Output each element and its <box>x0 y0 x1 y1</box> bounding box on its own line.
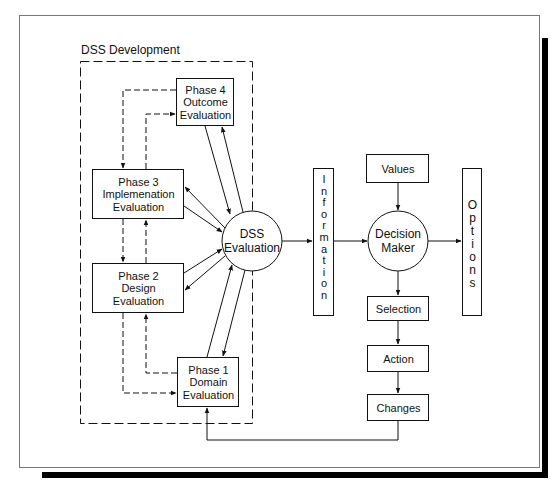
phase1-title: Phase 1 <box>188 364 228 377</box>
phase4-node: Phase 4 Outcome Evaluation <box>177 79 234 126</box>
phase1-subtitle: Domain <box>190 376 228 389</box>
options-letter: s <box>470 277 476 290</box>
phase4-title: Phase 4 <box>185 84 225 97</box>
phase3-subtitle: Implemenation <box>102 188 174 201</box>
phase4-kind: Evaluation <box>180 109 231 122</box>
dss-development-label: DSS Development <box>81 44 180 57</box>
decision-maker-line1: Decision <box>375 227 421 241</box>
phase3-kind: Evaluation <box>113 201 164 214</box>
dss-evaluation-line2: Evaluation <box>224 241 280 255</box>
phase2-title: Phase 2 <box>118 270 158 283</box>
information-letter: I <box>322 174 325 186</box>
phase1-kind: Evaluation <box>183 389 234 402</box>
action-node: Action <box>368 346 429 372</box>
phase2-node: Phase 2 Design Evaluation <box>93 264 184 313</box>
phase3-node: Phase 3 Implemenation Evaluation <box>93 170 184 219</box>
changes-node: Changes <box>368 395 429 421</box>
information-letter: n <box>321 290 327 302</box>
phase4-subtitle: Outcome <box>183 96 228 109</box>
phase1-node: Phase 1 Domain Evaluation <box>178 358 239 407</box>
values-node: Values <box>367 155 429 183</box>
information-node: I n f o r m a t i o n <box>314 169 334 316</box>
dss-evaluation-line1: DSS <box>240 227 265 241</box>
decision-maker-line2: Maker <box>381 241 414 255</box>
information-letter: m <box>319 232 328 244</box>
options-node: O p t i o n s <box>463 169 482 316</box>
phase3-title: Phase 3 <box>118 176 158 189</box>
phase2-subtitle: Design <box>121 282 155 295</box>
dss-evaluation-node: DSS Evaluation <box>222 211 282 271</box>
selection-node: Selection <box>368 297 429 321</box>
phase2-kind: Evaluation <box>113 295 164 308</box>
information-letter: t <box>322 255 325 267</box>
decision-maker-node: Decision Maker <box>368 211 428 271</box>
